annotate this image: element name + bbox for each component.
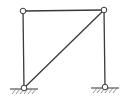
frame-diagram	[0, 0, 120, 98]
members	[23, 10, 105, 88]
frame-svg	[0, 0, 120, 98]
hinge-node-top-left	[20, 8, 26, 14]
right-column	[104, 10, 105, 87]
hinge-node-top-right	[101, 7, 107, 13]
top-beam	[23, 10, 104, 11]
left-column	[23, 11, 24, 88]
diagonal-brace	[24, 10, 104, 88]
pin-support-left	[21, 85, 27, 91]
pin-support-right	[102, 84, 108, 90]
